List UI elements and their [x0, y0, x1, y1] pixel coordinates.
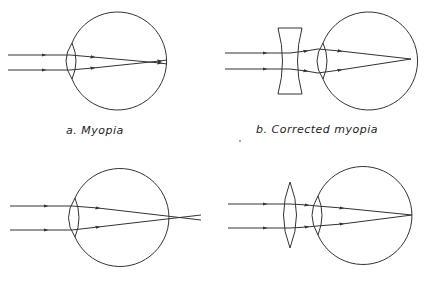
refracted-ray-lower	[342, 215, 412, 224]
stray-dot	[239, 140, 241, 142]
eyeball-outline	[75, 169, 169, 267]
eyeball-outline	[323, 12, 418, 110]
panel-b-corrected-myopia	[225, 12, 418, 110]
panel-a-myopia	[8, 12, 167, 110]
diverged-ray-lower	[306, 71, 318, 73]
diverged-ray-upper	[306, 49, 318, 51]
refracted-ray-upper	[98, 208, 201, 220]
refracted-ray-lower	[70, 68, 93, 70]
eye-lens	[312, 196, 322, 235]
refracted-ray-upper	[318, 49, 340, 51]
concave-lens	[278, 28, 302, 94]
refracted-ray-lower	[72, 227, 98, 230]
converged-ray-lower	[290, 227, 307, 228]
refracted-ray-upper	[342, 208, 412, 215]
eyeball-outline	[72, 12, 167, 110]
refracted-ray-lower	[160, 60, 167, 61]
convex-lens	[284, 182, 297, 248]
refracted-ray-upper	[70, 55, 93, 57]
refracted-ray-lower	[93, 61, 160, 68]
converged-ray-upper	[307, 205, 317, 206]
refracted-ray-upper	[317, 206, 342, 208]
refracted-ray-lower	[340, 59, 411, 70]
panel-d-corrected-hypermetropia	[228, 167, 412, 265]
converged-ray-lower	[307, 226, 317, 227]
refracted-ray-upper	[72, 206, 98, 208]
refracted-ray-lower	[98, 215, 201, 227]
panel-a-caption: a. Myopia	[66, 124, 124, 137]
eye-lens	[317, 43, 327, 79]
converged-ray-upper	[290, 204, 307, 205]
eye-optics-diagram	[0, 0, 424, 281]
panel-c-hypermetropia	[10, 169, 201, 267]
panel-b-caption: b. Corrected myopia	[256, 123, 378, 136]
eye-lens	[69, 198, 80, 237]
refracted-ray-upper	[340, 51, 411, 59]
refracted-ray-lower	[318, 70, 340, 73]
refracted-ray-upper	[160, 63, 167, 64]
eyeball-outline	[318, 167, 412, 265]
eye-lens	[66, 43, 76, 79]
